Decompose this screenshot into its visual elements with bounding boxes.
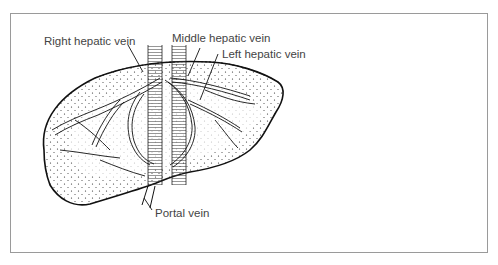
label-portal-vein: Portal vein (155, 208, 209, 220)
label-right-hepatic-vein: Right hepatic vein (44, 36, 135, 48)
label-middle-hepatic-vein: Middle hepatic vein (172, 33, 270, 45)
label-left-hepatic-vein: Left hepatic vein (222, 49, 306, 61)
vena-cava-band-left (148, 45, 162, 185)
vena-cava-band-right (172, 45, 186, 185)
